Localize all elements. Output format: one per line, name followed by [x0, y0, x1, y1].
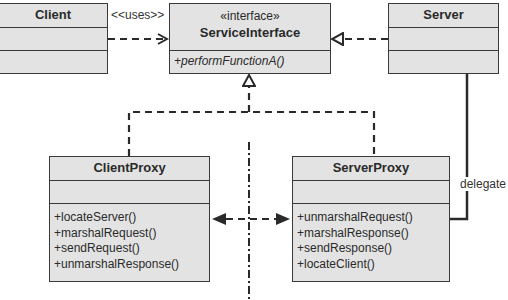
attributes-compartment — [0, 28, 107, 51]
stereotype: «interface» — [170, 9, 330, 23]
class-client: Client — [0, 3, 108, 74]
class-client-proxy: ClientProxy +locateServer() +marshalRequ… — [49, 156, 210, 282]
attributes-compartment — [389, 28, 498, 51]
operations-compartment: +unmarshalRequest() +marshalResponse() +… — [293, 204, 449, 272]
operation: +unmarshalResponse() — [50, 257, 209, 273]
delegate-label: delegate — [459, 177, 507, 191]
class-service-interface: «interface» ServiceInterface +performFun… — [169, 3, 331, 74]
class-name: Client — [0, 4, 107, 28]
operations-compartment: +performFunctionA() — [170, 51, 330, 73]
arrowhead-left — [212, 213, 226, 225]
class-name: ServerProxy — [293, 157, 449, 181]
attributes-compartment — [50, 181, 209, 204]
operation: +locateClient() — [293, 257, 449, 273]
operations-compartment — [389, 51, 498, 73]
operations-compartment — [0, 51, 107, 73]
operations-compartment: +locateServer() +marshalRequest() +sendR… — [50, 204, 209, 272]
operation: +locateServer() — [50, 210, 209, 226]
operation: +marshalRequest() — [50, 226, 209, 242]
class-server-proxy: ServerProxy +unmarshalRequest() +marshal… — [292, 156, 450, 282]
class-name: ServiceInterface — [200, 25, 300, 40]
proxy-realization-tree — [129, 112, 374, 156]
class-server: Server — [388, 3, 499, 74]
attributes-compartment — [293, 181, 449, 204]
uses-label: <<uses>> — [111, 8, 164, 22]
operation: +performFunctionA() — [170, 54, 330, 70]
operation: +unmarshalRequest() — [293, 210, 449, 226]
class-header: «interface» ServiceInterface — [170, 4, 330, 51]
operation: +sendResponse() — [293, 241, 449, 257]
delegate-line — [449, 73, 467, 219]
arrowhead-right — [276, 213, 290, 225]
operation: +sendRequest() — [50, 241, 209, 257]
class-name: ClientProxy — [50, 157, 209, 181]
operation: +marshalResponse() — [293, 226, 449, 242]
class-name: Server — [389, 4, 498, 28]
